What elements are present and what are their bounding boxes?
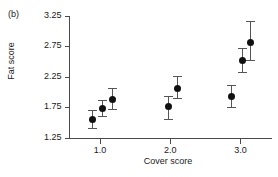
data-point — [228, 93, 235, 100]
y-tick-mark — [65, 46, 70, 47]
error-bar-cap-lower — [173, 98, 182, 99]
x-tick-mark — [240, 139, 241, 144]
y-tick-label: 3.25 — [28, 10, 62, 20]
figure-panel-b: (b) Fat score Cover score 1.251.752.252.… — [0, 0, 278, 177]
data-point — [99, 105, 106, 112]
y-tick-mark — [65, 16, 70, 17]
y-tick-mark — [65, 138, 70, 139]
y-tick-mark — [65, 77, 70, 78]
data-point — [239, 57, 246, 64]
error-bar-cap-upper — [173, 76, 182, 77]
error-bar-cap-lower — [227, 107, 236, 108]
x-tick-label: 1.0 — [85, 145, 115, 155]
data-point — [109, 96, 116, 103]
data-point — [165, 103, 172, 110]
y-tick-label: 2.75 — [28, 40, 62, 50]
error-bar-cap-lower — [246, 60, 255, 61]
x-tick-mark — [100, 139, 101, 144]
error-bar-cap-upper — [164, 96, 173, 97]
y-tick-mark — [65, 107, 70, 108]
error-bar-cap-lower — [238, 72, 247, 73]
error-bar-cap-lower — [88, 128, 97, 129]
x-tick-mark — [170, 139, 171, 144]
error-bar-cap-upper — [246, 21, 255, 22]
error-bar-cap-lower — [98, 116, 107, 117]
data-point — [174, 85, 181, 92]
error-bar-cap-upper — [227, 85, 236, 86]
y-tick-label: 2.25 — [28, 71, 62, 81]
y-tick-label: 1.25 — [28, 132, 62, 142]
error-bar-cap-lower — [108, 109, 117, 110]
x-tick-label: 2.0 — [155, 145, 185, 155]
error-bar-cap-upper — [238, 48, 247, 49]
error-bar-cap-lower — [164, 119, 173, 120]
error-bar-cap-upper — [88, 110, 97, 111]
error-bar-cap-upper — [98, 100, 107, 101]
error-bar-cap-upper — [108, 88, 117, 89]
x-tick-label: 3.0 — [225, 145, 255, 155]
y-tick-label: 1.75 — [28, 101, 62, 111]
data-point — [89, 116, 96, 123]
data-point — [247, 39, 254, 46]
plot-area: 1.251.752.252.753.251.02.03.0 — [0, 0, 278, 177]
